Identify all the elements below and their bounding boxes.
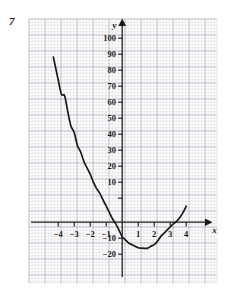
y-tick-label-10: 10 bbox=[108, 177, 117, 187]
y-tick-label-80: 80 bbox=[108, 65, 117, 75]
y-tick-label-70: 70 bbox=[108, 81, 117, 91]
y-tick-label-neg20: −20 bbox=[103, 249, 116, 259]
graph-figure: 7 bbox=[0, 0, 236, 293]
y-tick-label-neg10: −10 bbox=[103, 233, 116, 243]
y-tick-label-50: 50 bbox=[108, 113, 117, 123]
x-tick-label-neg2: −2 bbox=[86, 229, 95, 239]
y-tick-label-60: 60 bbox=[108, 97, 117, 107]
y-tick-label-100: 100 bbox=[103, 33, 116, 43]
coordinate-plane: −4 −3 −2 −1 1 2 3 4 100 90 80 70 60 50 4… bbox=[0, 0, 236, 293]
y-tick-label-90: 90 bbox=[108, 49, 117, 59]
y-tick-label-30: 30 bbox=[108, 145, 117, 155]
x-tick-label-3: 3 bbox=[168, 229, 172, 239]
x-tick-label-neg3: −3 bbox=[70, 229, 79, 239]
x-tick-label-2: 2 bbox=[152, 229, 156, 239]
y-tick-label-40: 40 bbox=[108, 129, 117, 139]
question-number: 7 bbox=[9, 16, 15, 27]
x-axis-label: x bbox=[211, 225, 217, 235]
x-tick-label-neg4: −4 bbox=[54, 229, 64, 239]
y-tick-label-20: 20 bbox=[108, 161, 117, 171]
x-tick-label-1: 1 bbox=[136, 229, 140, 239]
x-tick-label-4: 4 bbox=[184, 229, 189, 239]
